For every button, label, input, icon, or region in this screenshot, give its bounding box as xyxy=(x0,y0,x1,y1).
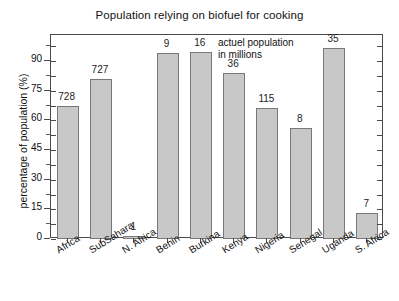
bar-chart: Population relying on biofuel for cookin… xyxy=(0,0,399,301)
bar-africa[interactable] xyxy=(57,106,79,239)
frame-tick-left xyxy=(51,239,56,240)
frame-tick-left xyxy=(51,150,56,151)
frame-tick-left xyxy=(51,135,56,136)
frame-tick-left xyxy=(51,224,56,225)
y-tick-label: 90 xyxy=(31,53,42,64)
bar-kenya[interactable] xyxy=(223,73,245,239)
y-tick-label: 0 xyxy=(36,231,42,242)
frame-tick-left xyxy=(51,120,56,121)
bar-benin[interactable] xyxy=(157,53,179,239)
bar-senegal[interactable] xyxy=(290,128,312,239)
frame-tick-right xyxy=(377,180,382,181)
bar-value-label: 115 xyxy=(246,93,286,104)
y-tick-label: 45 xyxy=(31,142,42,153)
frame-tick-right xyxy=(377,135,382,136)
bar-value-label: 8 xyxy=(280,113,320,124)
y-tick-label: 60 xyxy=(31,112,42,123)
bar-subsahara[interactable] xyxy=(90,79,112,239)
frame-tick-right xyxy=(377,209,382,210)
y-tick-mark xyxy=(44,238,50,239)
annotation-line-1: actuel population xyxy=(218,37,294,49)
annotation-actual-population: actuel population in millions xyxy=(218,37,294,61)
bar-value-label: 728 xyxy=(47,91,87,102)
frame-tick-right xyxy=(377,106,382,107)
bar-value-label: 727 xyxy=(80,64,120,75)
chart-title: Population relying on biofuel for cookin… xyxy=(0,9,399,21)
annotation-line-2: in millions xyxy=(218,49,294,61)
frame-tick-left xyxy=(51,61,56,62)
y-tick-label: 15 xyxy=(31,201,42,212)
bar-value-label: 16 xyxy=(180,37,220,48)
bar-burkina[interactable] xyxy=(190,52,212,239)
frame-tick-left xyxy=(51,165,56,166)
frame-tick-right xyxy=(377,120,382,121)
frame-tick-left xyxy=(51,106,56,107)
frame-tick-right xyxy=(377,46,382,47)
frame-tick-left xyxy=(51,209,56,210)
frame-tick-right xyxy=(377,165,382,166)
frame-tick-left xyxy=(51,76,56,77)
bar-value-label: 7 xyxy=(346,198,386,209)
frame-tick-right xyxy=(377,61,382,62)
frame-tick-right xyxy=(377,195,382,196)
frame-tick-right xyxy=(377,76,382,77)
bar-value-label: 35 xyxy=(313,33,353,44)
frame-tick-right xyxy=(377,91,382,92)
frame-tick-left xyxy=(51,195,56,196)
frame-tick-left xyxy=(51,46,56,47)
y-axis-label: percentage of population (%) xyxy=(17,51,29,231)
frame-tick-left xyxy=(51,180,56,181)
y-tick-label: 75 xyxy=(31,83,42,94)
frame-tick-right xyxy=(377,224,382,225)
frame-tick-right xyxy=(377,150,382,151)
bar-nigeria[interactable] xyxy=(256,108,278,239)
bar-uganda[interactable] xyxy=(323,48,345,239)
y-tick-label: 30 xyxy=(31,172,42,183)
